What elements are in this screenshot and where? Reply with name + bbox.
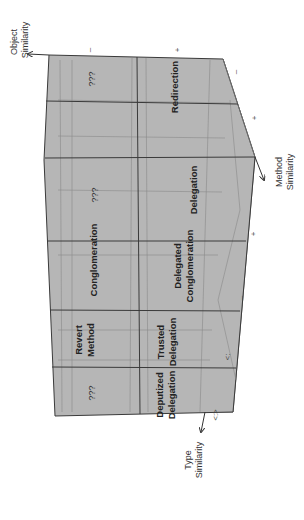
cell-label-redirection: Redirection <box>169 61 180 113</box>
object-axis-arrow <box>28 54 49 55</box>
cell-label-unknown-3: ??? <box>87 385 97 400</box>
tick-right-3: + <box>249 231 258 236</box>
svg-text:Similarity: Similarity <box>20 21 30 58</box>
tick-right-5: <: <box>223 354 232 361</box>
tick-right-2: + <box>250 115 259 120</box>
tick-top-1: – <box>85 47 94 52</box>
tick-right-1: – <box>231 69 240 74</box>
cell-label-revert-method-1: Revert <box>73 324 84 354</box>
method-axis-arrow <box>255 157 264 180</box>
tick-right-4: – <box>237 295 246 300</box>
svg-text:Similarity: Similarity <box>285 153 295 190</box>
cell-label-deputized-delegation-1: Deputized <box>154 372 165 418</box>
type-axis-arrow <box>201 412 205 432</box>
cube-front-face <box>44 55 255 416</box>
cell-label-revert-method-2: Method <box>85 323 96 357</box>
svg-text:Type: Type <box>183 450 193 470</box>
svg-text:Object: Object <box>9 28 19 55</box>
svg-text:Similarity: Similarity <box>194 441 204 478</box>
object-axis-label: Object Similarity <box>9 21 30 58</box>
type-axis-label: Type Similarity <box>183 441 204 478</box>
tick-top-2: + <box>173 47 182 52</box>
cell-label-delegated-conglomeration-1: Delegated <box>172 243 183 289</box>
cell-label-unknown-1: ??? <box>87 71 97 86</box>
tick-bottom: <:> <box>211 409 220 421</box>
svg-text:Method: Method <box>274 157 284 187</box>
cell-label-delegation: Delegation <box>188 166 199 215</box>
cell-label-conglomeration: Conglomeration <box>88 223 99 296</box>
cell-label-deputized-delegation-2: Delegation <box>166 371 177 420</box>
cell-label-delegated-conglomeration-2: Conglomeration <box>184 229 195 302</box>
similarity-cube-diagram: Object Similarity Method Similarity Type… <box>0 0 304 520</box>
cell-label-unknown-2: ??? <box>90 187 100 202</box>
cell-label-trusted-delegation-1: Trusted <box>155 325 166 360</box>
method-axis-label: Method Similarity <box>274 153 295 190</box>
cell-label-trusted-delegation-2: Delegation <box>167 318 178 367</box>
